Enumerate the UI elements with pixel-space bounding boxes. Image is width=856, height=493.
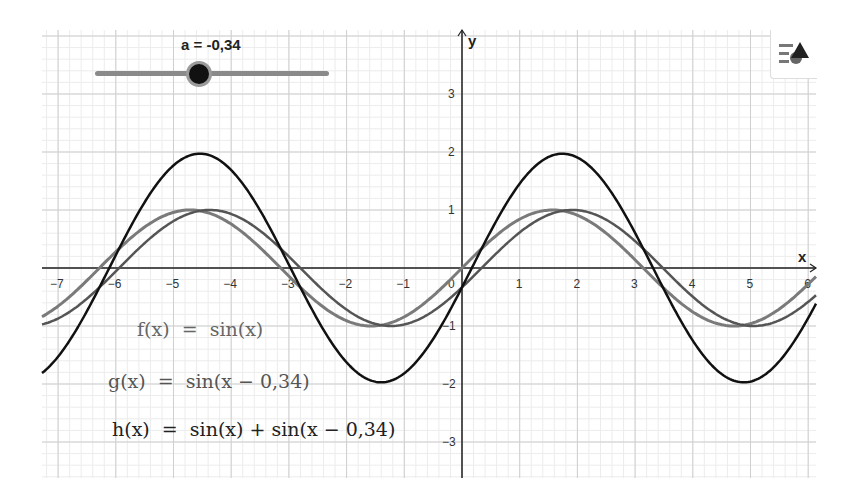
y-tick-label: −3 <box>442 435 456 449</box>
y-tick-label: 3 <box>448 87 455 101</box>
style-bar-icon <box>771 30 817 78</box>
y-tick-label: 1 <box>448 203 455 217</box>
formula-h: h(x) = sin(x) + sin(x − 0,34) <box>112 418 395 440</box>
y-tick-label: −2 <box>442 377 456 391</box>
x-tick-label: 2 <box>573 277 580 291</box>
x-axis-label: x <box>798 248 807 265</box>
x-tick-label: −1 <box>396 277 410 291</box>
axes: xy <box>42 30 816 478</box>
formula-g: g(x) = sin(x − 0,34) <box>108 370 310 392</box>
slider-knob[interactable] <box>189 64 209 84</box>
style-bar-toggle-button[interactable] <box>770 30 817 79</box>
y-tick-label: 2 <box>448 145 455 159</box>
y-axis-label: y <box>468 32 477 49</box>
x-tick-label: 1 <box>516 277 523 291</box>
formula-f: f(x) = sin(x) <box>137 318 263 340</box>
x-tick-label: −4 <box>223 277 237 291</box>
major-grid <box>42 30 816 478</box>
x-tick-label: 4 <box>689 277 696 291</box>
slider-label: a = -0,34 <box>181 36 241 53</box>
slider-track[interactable] <box>95 71 329 76</box>
x-tick-label: −7 <box>50 277 64 291</box>
x-tick-label: −5 <box>166 277 180 291</box>
x-tick-label: −6 <box>108 277 122 291</box>
x-tick-label: −2 <box>339 277 353 291</box>
x-tick-label: 5 <box>747 277 754 291</box>
x-tick-label: 3 <box>631 277 638 291</box>
minor-grid <box>42 30 816 478</box>
